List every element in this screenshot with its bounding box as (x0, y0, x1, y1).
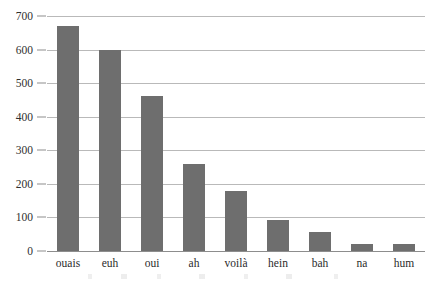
x-tick-label-bah: bah (312, 258, 329, 270)
y-tick-label-500: 500 (16, 77, 33, 89)
y-tick-mark-100 (37, 217, 46, 218)
bar-euh (99, 50, 121, 251)
y-tick-mark-300 (37, 150, 46, 151)
bar-oui (141, 96, 163, 251)
y-tick-label-300: 300 (16, 144, 33, 156)
x-tick-label-na: na (357, 258, 368, 270)
bar-ouais (57, 26, 79, 251)
x-tick-label-hum: hum (394, 258, 414, 270)
bar-hein (267, 220, 289, 251)
y-tick-mark-0 (37, 251, 46, 252)
bar-chart-figure: 700 600 500 400 300 200 100 0 ouaiseuhou… (0, 0, 437, 282)
y-tick-mark-400 (37, 116, 46, 117)
y-tick-mark-600 (37, 49, 46, 50)
x-tick-label-oui: oui (145, 258, 160, 270)
plot-area (47, 16, 425, 251)
bar-series (47, 16, 425, 251)
bar-bah (309, 232, 331, 251)
bar-na (351, 244, 373, 251)
x-tick-label-ouais: ouais (56, 258, 80, 270)
x-tick-label-hein: hein (268, 258, 288, 270)
bar-ah (183, 164, 205, 251)
y-tick-mark-700 (37, 16, 46, 17)
y-tick-mark-500 (37, 83, 46, 84)
scan-artifact (70, 274, 370, 279)
x-tick-label-ah: ah (189, 258, 200, 270)
y-axis: 700 600 500 400 300 200 100 0 (0, 16, 47, 251)
y-tick-label-600: 600 (16, 44, 33, 56)
y-tick-label-0: 0 (27, 245, 33, 257)
x-axis: ouaiseuhouiahvoilàheinbahnahum (47, 252, 425, 274)
bar-hum (393, 244, 415, 251)
x-tick-label-voilà: voilà (225, 258, 248, 270)
y-tick-label-400: 400 (16, 111, 33, 123)
y-tick-label-100: 100 (16, 211, 33, 223)
bar-voilà (225, 191, 247, 251)
y-tick-label-700: 700 (16, 10, 33, 22)
y-tick-label-200: 200 (16, 178, 33, 190)
y-tick-mark-200 (37, 183, 46, 184)
x-tick-label-euh: euh (102, 258, 119, 270)
